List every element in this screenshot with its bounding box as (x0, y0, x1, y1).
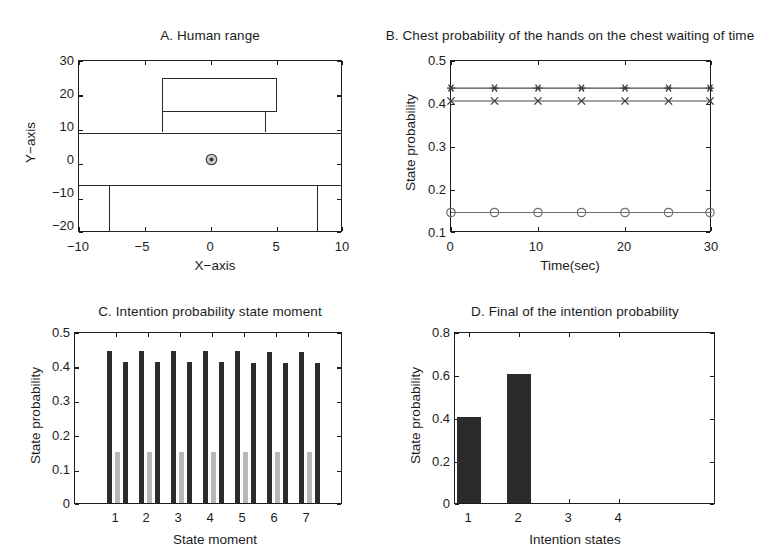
bar-c-g2-s3 (155, 362, 160, 503)
bar-c-g1-s1 (107, 351, 112, 503)
panel-c-xtick-2: 2 (134, 510, 158, 525)
panel-a-xlabel: X−axis (75, 258, 355, 273)
bar-d-1 (457, 417, 481, 503)
bar-c-g4-s1 (203, 351, 208, 503)
panel-d-xtick-4: 4 (606, 510, 630, 525)
panel-d-xtick-1: 1 (456, 510, 480, 525)
human-lower-box (109, 185, 318, 233)
panel-d-title: D. Final of the intention probability (425, 304, 725, 319)
panel-c-ytick-0: 0 (24, 496, 70, 511)
panel-d-ytick-02: 0.2 (404, 454, 450, 469)
bar-c-g5-s2 (243, 452, 248, 503)
center-marker-icon (205, 153, 218, 166)
panel-b-axes (450, 60, 711, 232)
human-upper-box (162, 78, 277, 112)
bar-c-g4-s3 (219, 362, 224, 503)
panel-b-xtick-10: 10 (518, 239, 554, 254)
panel-a-ytick-m20: −20 (20, 218, 74, 233)
bar-c-g2-s2 (147, 452, 152, 503)
panel-b-ytick-04: 0.4 (400, 96, 446, 111)
panel-a-axes (78, 60, 342, 232)
human-left-leg (162, 112, 163, 133)
panel-d-ytick-0: 0 (404, 496, 450, 511)
panel-c-title: C. Intention probability state moment (50, 304, 370, 319)
bar-c-g1-s2 (115, 452, 120, 503)
panel-a-xtick-5: 5 (256, 239, 296, 254)
panel-b-ytick-01: 0.1 (400, 225, 446, 240)
panel-c-ytick-05: 0.5 (24, 325, 70, 340)
panel-c-ytick-02: 0.2 (24, 428, 70, 443)
panel-a-xtick-0: 0 (190, 239, 230, 254)
panel-c-xtick-4: 4 (198, 510, 222, 525)
panel-c-xtick-3: 3 (166, 510, 190, 525)
bar-c-g3-s3 (187, 362, 192, 503)
figure-canvas: A. Human range Y−axis X−axis 30 20 10 0 … (0, 0, 779, 557)
panel-d-axes (454, 332, 715, 504)
panel-d-xtick-3: 3 (556, 510, 580, 525)
panel-b: B. Chest probability of the hands on the… (390, 0, 779, 278)
panel-c-xtick-7: 7 (294, 510, 318, 525)
panel-d-ytick-06: 0.6 (404, 368, 450, 383)
panel-a-xtick-m5: −5 (122, 239, 162, 254)
panel-a-title: A. Human range (60, 28, 360, 43)
panel-a-ytick-10: 10 (28, 119, 74, 134)
panel-d-ytick-04: 0.4 (404, 411, 450, 426)
panel-c-xtick-1: 1 (103, 510, 127, 525)
panel-c: C. Intention probability state moment St… (0, 278, 390, 557)
panel-b-xtick-20: 20 (606, 239, 642, 254)
panel-d-xtick-2: 2 (506, 510, 530, 525)
panel-b-ytick-03: 0.3 (400, 139, 446, 154)
panel-d: D. Final of the intention probability St… (390, 278, 779, 557)
bar-c-g4-s2 (211, 452, 216, 503)
panel-a-ytick-m10: −10 (20, 185, 74, 200)
bar-c-g3-s2 (179, 452, 184, 503)
bar-c-g6-s2 (275, 452, 280, 503)
panel-a-ytick-20: 20 (28, 86, 74, 101)
bar-d-2 (507, 374, 531, 503)
panel-a-ytick-0: 0 (28, 152, 74, 167)
bar-c-g7-s1 (299, 352, 304, 503)
human-mid-line (79, 133, 342, 134)
bar-c-g6-s3 (283, 363, 288, 503)
panel-a: A. Human range Y−axis X−axis 30 20 10 0 … (0, 0, 390, 278)
panel-a-xtick-10: 10 (322, 239, 362, 254)
panel-a-ytick-30: 30 (28, 53, 74, 68)
panel-a-ylabel: Y−axis (23, 88, 38, 198)
bar-c-g5-s3 (251, 363, 256, 503)
bar-c-g3-s1 (171, 351, 176, 503)
panel-b-ytick-02: 0.2 (400, 182, 446, 197)
panel-b-title: B. Chest probability of the hands on the… (360, 28, 779, 43)
panel-c-xtick-5: 5 (230, 510, 254, 525)
panel-b-ytick-05: 0.5 (400, 53, 446, 68)
panel-a-xtick-m10: −10 (58, 239, 98, 254)
panel-c-ytick-01: 0.1 (24, 462, 70, 477)
bar-c-g7-s3 (315, 363, 320, 503)
panel-b-xlabel: Time(sec) (425, 258, 715, 273)
panel-c-xtick-6: 6 (262, 510, 286, 525)
panel-b-xtick-0: 0 (432, 239, 468, 254)
bar-c-g5-s1 (235, 351, 240, 503)
panel-d-xlabel: Intention states (435, 532, 715, 547)
panel-b-xtick-30: 30 (693, 239, 729, 254)
panel-c-ytick-03: 0.3 (24, 393, 70, 408)
panel-c-axes (74, 332, 342, 504)
panel-d-ytick-08: 0.8 (404, 325, 450, 340)
panel-c-xlabel: State moment (75, 532, 355, 547)
bar-c-g6-s1 (267, 352, 272, 503)
bar-c-g7-s2 (307, 452, 312, 503)
panel-c-ytick-04: 0.4 (24, 359, 70, 374)
human-right-leg (265, 112, 266, 133)
bar-c-g2-s1 (139, 351, 144, 503)
panel-b-plot-lines (451, 61, 712, 233)
bar-c-g1-s3 (123, 362, 128, 503)
